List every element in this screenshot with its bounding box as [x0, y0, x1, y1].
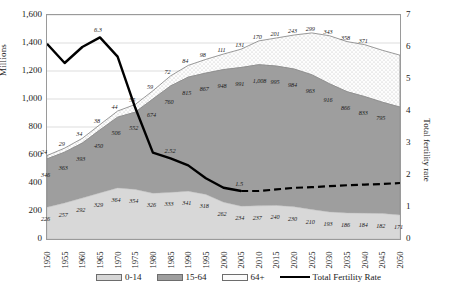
- data-label-0-14: 171: [394, 223, 403, 230]
- data-label-64plus: 38: [94, 117, 100, 124]
- legend-label: Total Fertility Rate: [313, 272, 381, 282]
- data-label-15-64: 991: [235, 80, 244, 87]
- data-label-0-14: 292: [76, 206, 85, 213]
- stacked-areas: [47, 33, 400, 239]
- data-label-64plus: 343: [323, 28, 332, 35]
- data-label-0-14: 230: [288, 215, 297, 222]
- data-label-15-64: 1,008: [253, 77, 266, 84]
- data-label-15-64: 948: [218, 82, 227, 89]
- data-label-64plus: 84: [182, 57, 188, 64]
- legend-line-swatch: [280, 276, 310, 278]
- data-label-15-64: 346: [41, 171, 50, 178]
- data-label-0-14: 184: [359, 221, 368, 228]
- data-label-0-14: 262: [218, 210, 227, 217]
- y-tick-left: 1,000: [2, 93, 42, 103]
- data-label-15-64: 760: [165, 98, 174, 105]
- legend-label: 64+: [251, 272, 265, 282]
- data-label-64plus: 55: [129, 96, 135, 103]
- y-tick-right: 6: [406, 41, 430, 51]
- data-label-15-64: 867: [200, 85, 209, 92]
- y-tick-right: 4: [406, 105, 430, 115]
- legend: 0-1415-6464+Total Fertility Rate: [96, 272, 381, 282]
- y-tick-left: 600: [2, 149, 42, 159]
- data-label-15-64: 393: [76, 155, 85, 162]
- legend-color-swatch: [157, 274, 183, 281]
- data-label-64plus: 371: [359, 37, 368, 44]
- data-label-15-64: 866: [341, 104, 350, 111]
- y-tick-right: 1: [406, 201, 430, 211]
- data-label-64plus: 358: [341, 34, 350, 41]
- x-tick: 2050: [395, 243, 405, 277]
- data-label-0-14: 257: [59, 211, 68, 218]
- data-label-0-14: 341: [182, 199, 191, 206]
- legend-label: 0-14: [125, 272, 142, 282]
- legend-color-swatch: [96, 274, 122, 281]
- data-label-15-64: 984: [288, 81, 297, 88]
- data-label-64plus: 131: [235, 41, 244, 48]
- data-label-0-14: 318: [200, 202, 209, 209]
- y-tick-right: 7: [406, 9, 430, 19]
- data-label-0-14: 354: [129, 197, 138, 204]
- legend-color-swatch: [222, 274, 248, 281]
- legend-item[interactable]: 15-64: [157, 272, 207, 282]
- data-label-15-64: 995: [270, 78, 279, 85]
- data-label-15-64: 815: [182, 89, 191, 96]
- fertility-population-chart: Millions Total fertility rate 1,6001,400…: [0, 0, 453, 295]
- data-label-0-14: 326: [147, 201, 156, 208]
- data-label-15-64: 916: [323, 96, 332, 103]
- x-tick: 1955: [60, 243, 70, 277]
- y-tick-left: 400: [2, 177, 42, 187]
- data-label-64plus: 201: [270, 30, 279, 37]
- data-label-15-64: 363: [59, 164, 68, 171]
- y-tick-right: 0: [406, 233, 430, 243]
- data-label-64plus: 243: [288, 27, 297, 34]
- data-label-15-64: 795: [376, 114, 385, 121]
- x-tick: 1960: [77, 243, 87, 277]
- data-label-64plus: 34: [76, 130, 82, 137]
- data-label-64plus: 111: [218, 46, 226, 53]
- y-tick-left: 1,400: [2, 37, 42, 47]
- data-label-15-64: 552: [129, 124, 138, 131]
- data-label-64plus: 98: [200, 51, 206, 58]
- data-label-64plus: 44: [112, 103, 118, 110]
- legend-item[interactable]: 0-14: [96, 272, 142, 282]
- data-label-0-14: 226: [41, 215, 50, 222]
- y-tick-left: 0: [2, 233, 42, 243]
- data-label-64plus: 299: [306, 25, 315, 32]
- data-label-64plus: 29: [59, 140, 65, 147]
- data-label-64plus: 59: [147, 83, 153, 90]
- data-label-64plus: 24: [41, 148, 47, 155]
- legend-item[interactable]: 64+: [222, 272, 265, 282]
- x-tick: 1950: [42, 243, 52, 277]
- data-label-0-14: 329: [94, 201, 103, 208]
- data-label-0-14: 210: [306, 218, 315, 225]
- data-label-0-14: 364: [112, 196, 121, 203]
- data-label-15-64: 450: [94, 142, 103, 149]
- data-label-64plus: 170: [253, 33, 262, 40]
- tfr-annotation: 6.3: [94, 26, 102, 33]
- data-label-0-14: 193: [323, 220, 332, 227]
- y-tick-left: 200: [2, 205, 42, 215]
- y-tick-left: 1,600: [2, 9, 42, 19]
- y-tick-right: 2: [406, 169, 430, 179]
- data-label-0-14: 333: [165, 200, 174, 207]
- y-tick-right: 5: [406, 73, 430, 83]
- data-label-0-14: 237: [253, 214, 262, 221]
- data-label-15-64: 833: [359, 109, 368, 116]
- tfr-annotation: 2.52: [165, 147, 176, 154]
- legend-item[interactable]: Total Fertility Rate: [280, 272, 381, 282]
- data-label-0-14: 240: [270, 213, 279, 220]
- y-tick-left: 1,200: [2, 65, 42, 75]
- data-label-15-64: 674: [147, 111, 156, 118]
- data-label-64plus: 72: [165, 68, 171, 75]
- data-label-15-64: 963: [306, 87, 315, 94]
- data-label-0-14: 234: [235, 214, 244, 221]
- legend-label: 15-64: [186, 272, 207, 282]
- data-label-15-64: 506: [112, 129, 121, 136]
- y-tick-left: 800: [2, 121, 42, 131]
- data-label-0-14: 186: [341, 221, 350, 228]
- tfr-annotation: 1.5: [235, 180, 243, 187]
- y-tick-right: 3: [406, 137, 430, 147]
- data-label-0-14: 182: [376, 222, 385, 229]
